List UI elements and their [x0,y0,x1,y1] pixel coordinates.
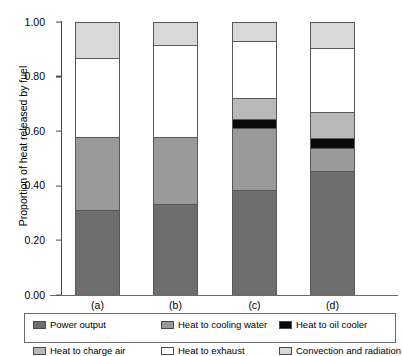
bar-segment [311,171,354,295]
bar-segment [233,119,276,129]
legend-item: Heat to exhaust [161,345,245,356]
bar-segment [311,48,354,112]
legend-swatch-icon [161,321,174,329]
legend-swatch-icon [279,321,292,329]
legend-swatch-icon [33,347,46,355]
y-tick-label: 0.20 [25,235,45,246]
bar-segment [76,22,119,57]
y-tick-label: 0.80 [25,71,45,82]
bar-segment [154,137,197,204]
y-tick-mark [56,240,61,241]
y-tick-label: 0.40 [25,181,45,192]
legend-row-2: Heat to charge airHeat to exhaustConvect… [29,329,391,342]
y-tick-mark [56,76,61,77]
plot-area: 0.000.200.400.600.801.00 [62,22,390,295]
bar-segment [76,210,119,295]
bar-segment [233,128,276,189]
legend-swatch-icon [33,321,46,329]
bar-segment [311,22,354,48]
x-tick-label: (a) [68,299,128,311]
y-tick-mark [56,131,61,132]
legend-swatch-icon [161,347,174,355]
y-tick-mark [56,294,61,295]
bar-segment [311,148,354,171]
chart-legend: Power outputHeat to cooling waterHeat to… [24,313,396,343]
legend-item: Heat to charge air [33,345,126,356]
bar-segment [154,45,197,136]
y-tick-mark [56,21,61,22]
bar-segment [233,41,276,98]
stacked-bar-b [153,22,198,295]
x-axis-baseline [50,295,398,296]
bar-segment [233,98,276,118]
stacked-bar-c [232,22,277,295]
bar-segment [233,22,276,41]
y-tick-label: 0.60 [25,126,45,137]
bar-segment [76,137,119,211]
x-tick-label: (b) [146,299,206,311]
x-tick-label: (d) [303,299,363,311]
bar-segment [154,204,197,295]
legend-item: Convection and radiation [279,345,401,356]
legend-label: Convection and radiation [296,345,401,356]
legend-row-1: Power outputHeat to cooling waterHeat to… [29,316,391,329]
x-tick-label: (c) [225,299,285,311]
legend-swatch-icon [279,347,292,355]
bar-segment [311,112,354,138]
bar-segment [311,138,354,148]
y-tick-label: 0.00 [25,290,45,301]
legend-label: Heat to charge air [50,345,126,356]
stacked-bar-d [310,22,355,295]
bar-segment [76,58,119,137]
bar-segment [233,190,276,295]
y-tick-mark [56,185,61,186]
stacked-bar-a [75,22,120,295]
legend-label: Heat to exhaust [178,345,245,356]
y-tick-label: 1.00 [25,17,45,28]
bar-segment [154,22,197,45]
